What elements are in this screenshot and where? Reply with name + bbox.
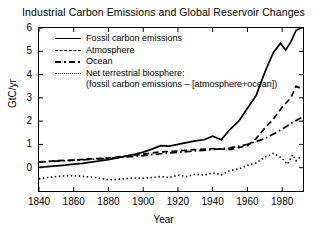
series-line-1 — [39, 86, 301, 162]
legend-line-sample-icon — [55, 57, 81, 66]
legend-item-1: Atmosphere — [55, 45, 277, 57]
chart-title: Industrial Carbon Emissions and Global R… — [0, 6, 327, 18]
legend-line-sample-icon — [55, 34, 81, 43]
legend-item-label: Atmosphere — [86, 45, 135, 57]
x-tick-label: 1980 — [262, 196, 302, 207]
y-tick-label: 4 — [10, 69, 32, 80]
y-tick-label: 5 — [10, 45, 32, 56]
series-line-2 — [39, 118, 301, 162]
chart-figure: Industrial Carbon Emissions and Global R… — [0, 0, 327, 238]
legend-item-2: Ocean — [55, 56, 277, 68]
legend-item-0: Fossil carbon emissions — [55, 33, 277, 45]
y-tick-label: 2 — [10, 115, 32, 126]
y-tick-label: 1 — [10, 138, 32, 149]
legend-item-3: Net terrestrial biosphere: — [55, 68, 277, 80]
series-line-3 — [39, 153, 301, 180]
chart-legend: Fossil carbon emissionsAtmosphereOceanNe… — [55, 33, 277, 91]
y-tick-label: 0 — [10, 162, 32, 173]
legend-item-continuation: (fossil carbon emissions – [atmosphere+o… — [55, 79, 277, 91]
legend-line-sample-icon — [55, 69, 81, 78]
legend-item-label: Ocean — [86, 56, 113, 68]
y-tick-label: 3 — [10, 92, 32, 103]
y-tick-label: 6 — [10, 22, 32, 33]
x-axis-title: Year — [0, 214, 327, 225]
legend-item-label: Fossil carbon emissions — [86, 33, 182, 45]
legend-item-label: Net terrestrial biosphere: — [86, 68, 185, 80]
legend-line-sample-icon — [55, 46, 81, 55]
